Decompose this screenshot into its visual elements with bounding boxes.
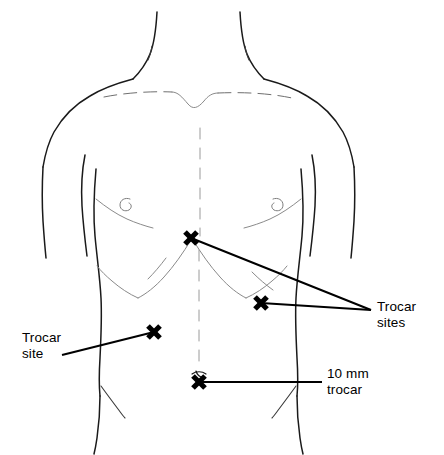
marker-left-flank-trocar-site bbox=[148, 326, 160, 338]
neck-left-crease bbox=[148, 46, 152, 60]
neck-right-crease bbox=[245, 46, 249, 60]
trocar-site-figure: Trocar sites Trocar site 10 mm trocar bbox=[0, 0, 444, 455]
left-costal-margin-lower bbox=[97, 266, 138, 298]
left-pectoral-crease bbox=[96, 199, 153, 228]
neck-right-contour bbox=[240, 12, 264, 79]
label-trocar-site: Trocar site bbox=[22, 330, 61, 362]
left-hip-contour bbox=[94, 396, 100, 454]
clavicle-right-line bbox=[218, 93, 292, 98]
torso-illustration bbox=[0, 0, 444, 455]
neck-left-contour bbox=[133, 12, 157, 79]
left-costal-margin bbox=[138, 240, 191, 298]
right-arm-inner-contour bbox=[310, 155, 315, 256]
right-hip-contour bbox=[297, 396, 303, 454]
left-nipple-icon bbox=[120, 198, 131, 210]
right-costal-margin-lower bbox=[246, 266, 287, 298]
sternal-notch-dip bbox=[172, 92, 218, 108]
left-arm-inner-contour bbox=[82, 155, 87, 256]
left-shoulder-contour bbox=[43, 79, 133, 167]
left-torso-contour bbox=[94, 169, 102, 396]
left-iliac-crest-line bbox=[101, 386, 125, 418]
marker-xiphoid-trocar-site bbox=[185, 232, 197, 244]
leader-flank-to-trocar-site bbox=[62, 332, 154, 355]
left-arm-outer-contour bbox=[42, 167, 46, 258]
right-arm-outer-contour bbox=[351, 167, 355, 258]
label-ten-mm-trocar: 10 mm trocar bbox=[327, 366, 369, 398]
right-iliac-crest-line bbox=[272, 386, 296, 418]
right-nipple-icon bbox=[272, 198, 283, 210]
right-shoulder-contour bbox=[264, 79, 354, 167]
clavicle-left-line bbox=[104, 92, 172, 97]
right-rib-shading-line bbox=[252, 272, 273, 290]
left-rib-shading-line bbox=[148, 258, 166, 279]
label-trocar-sites: Trocar sites bbox=[377, 299, 416, 331]
